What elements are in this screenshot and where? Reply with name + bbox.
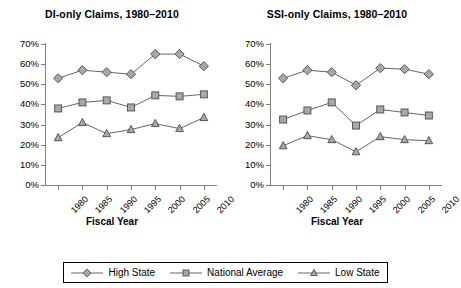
y-axis-tick-label: 50% — [245, 79, 264, 89]
data-point-marker — [304, 131, 312, 138]
y-axis-tick-label: 60% — [20, 59, 39, 69]
y-axis-tick-label: 10% — [245, 160, 264, 170]
data-point-marker — [79, 118, 87, 125]
data-point-marker — [175, 49, 184, 58]
y-axis-tick — [41, 185, 46, 186]
data-point-marker — [353, 122, 360, 129]
x-axis-tick — [107, 185, 108, 190]
data-point-marker — [151, 119, 159, 126]
x-axis-tick — [283, 185, 284, 190]
x-axis-tick-label: 1995 — [367, 194, 388, 215]
y-axis-tick-label: 60% — [245, 59, 264, 69]
chart-panels: DI-only Claims, 1980–2010 0%10%20%30%40%… — [0, 0, 449, 250]
chart-panel-ssi-only: SSI-only Claims, 1980–2010 0%10%20%30%40… — [225, 0, 449, 250]
y-axis-tick-label: 30% — [20, 120, 39, 130]
data-point-marker — [200, 91, 207, 98]
data-point-marker — [128, 104, 135, 111]
x-axis-tick-label: 1990 — [118, 194, 139, 215]
data-point-marker — [425, 136, 433, 143]
data-point-marker — [279, 74, 288, 83]
plot-area-ssi-only: 0%10%20%30%40%50%60%70%19801985199019952… — [271, 44, 441, 185]
data-point-marker — [78, 66, 87, 75]
x-axis-tick-label: 1985 — [318, 194, 339, 215]
x-axis-tick — [82, 185, 83, 190]
data-point-marker — [303, 66, 312, 75]
x-axis-title: Fiscal Year — [0, 216, 224, 227]
plot-area-di-only: 0%10%20%30%40%50%60%70%19801985199019952… — [46, 44, 216, 185]
legend-label: National Average — [207, 267, 283, 278]
x-axis-title: Fiscal Year — [225, 216, 449, 227]
data-point-marker — [280, 116, 287, 123]
data-point-marker — [400, 65, 409, 74]
diamond-marker-icon — [71, 266, 103, 280]
data-point-marker — [304, 107, 311, 114]
x-axis-tick-label: 1985 — [93, 194, 114, 215]
x-axis-tick — [356, 185, 357, 190]
data-point-marker — [199, 62, 208, 71]
data-point-marker — [424, 70, 433, 79]
data-point-marker — [327, 68, 336, 77]
data-point-marker — [376, 64, 385, 73]
x-axis-tick — [204, 185, 205, 190]
x-axis-tick-label: 2010 — [440, 194, 461, 215]
data-point-marker — [328, 99, 335, 106]
data-point-marker — [102, 68, 111, 77]
x-axis-tick — [180, 185, 181, 190]
x-axis-tick — [58, 185, 59, 190]
y-axis-tick-label: 50% — [20, 79, 39, 89]
x-axis-tick-label: 2005 — [190, 194, 211, 215]
data-point-marker — [54, 74, 63, 83]
x-axis-tick-label: 2000 — [391, 194, 412, 215]
y-axis-tick — [266, 185, 271, 186]
x-axis-tick — [429, 185, 430, 190]
x-axis-tick — [131, 185, 132, 190]
x-axis-tick-label: 1990 — [343, 194, 364, 215]
chart-panel-di-only: DI-only Claims, 1980–2010 0%10%20%30%40%… — [0, 0, 224, 250]
y-axis-tick-label: 20% — [245, 140, 264, 150]
x-axis-tick — [307, 185, 308, 190]
x-axis-tick — [332, 185, 333, 190]
data-point-marker — [425, 112, 432, 119]
data-point-marker — [200, 113, 208, 120]
legend-label: High State — [108, 267, 155, 278]
legend-label: Low State — [335, 267, 379, 278]
legend-item-national-average: National Average — [170, 266, 283, 280]
y-axis-tick-label: 70% — [20, 39, 39, 49]
legend-item-high-state: High State — [71, 266, 155, 280]
y-axis-tick-label: 20% — [20, 140, 39, 150]
chart-title: DI-only Claims, 1980–2010 — [0, 8, 224, 21]
y-axis-tick-label: 70% — [245, 39, 264, 49]
x-axis-tick — [380, 185, 381, 190]
data-point-marker — [176, 93, 183, 100]
data-point-marker — [401, 109, 408, 116]
x-axis-tick-label: 1980 — [294, 194, 315, 215]
y-axis-tick-label: 40% — [20, 99, 39, 109]
data-series-group — [271, 44, 441, 185]
data-series-group — [46, 44, 216, 185]
chart-legend: High StateNational AverageLow State — [63, 262, 388, 283]
x-axis-tick-label: 2000 — [166, 194, 187, 215]
data-point-marker — [279, 142, 287, 149]
data-point-marker — [103, 97, 110, 104]
x-axis-tick — [405, 185, 406, 190]
y-axis-tick-label: 30% — [245, 120, 264, 130]
legend-item-low-state: Low State — [298, 266, 379, 280]
x-axis-tick-label: 1995 — [142, 194, 163, 215]
data-point-marker — [376, 132, 384, 139]
data-point-marker — [54, 133, 62, 140]
data-point-marker — [55, 105, 62, 112]
chart-title: SSI-only Claims, 1980–2010 — [225, 8, 449, 21]
y-axis-tick-label: 40% — [245, 99, 264, 109]
y-axis-tick-label: 0% — [25, 180, 39, 190]
data-point-marker — [352, 148, 360, 155]
x-axis-tick — [155, 185, 156, 190]
data-point-marker — [377, 106, 384, 113]
square-marker-icon — [170, 266, 202, 280]
y-axis-tick-label: 0% — [250, 180, 264, 190]
x-axis-tick-label: 2005 — [415, 194, 436, 215]
data-point-marker — [152, 92, 159, 99]
x-axis-tick-label: 1980 — [69, 194, 90, 215]
y-axis-tick-label: 10% — [20, 160, 39, 170]
data-point-marker — [79, 99, 86, 106]
